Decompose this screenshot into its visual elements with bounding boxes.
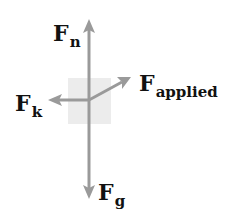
gravity-force-label: Fg xyxy=(98,181,125,203)
applied-force-label: Fapplied xyxy=(139,72,218,94)
free-body-diagram: Fn Fk Fapplied Fg xyxy=(0,0,229,218)
applied-shaft xyxy=(89,82,122,100)
friction-force-label: Fk xyxy=(15,92,42,114)
normal-force-label: Fn xyxy=(53,22,81,44)
